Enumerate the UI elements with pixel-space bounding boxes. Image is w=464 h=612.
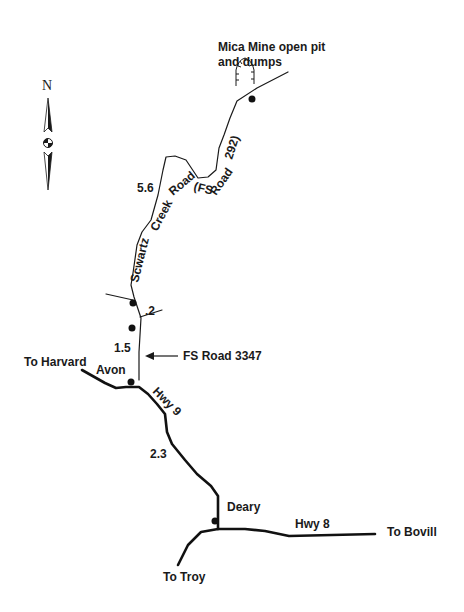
fs-road-3347-pointer-arrow	[145, 352, 178, 360]
road-label-road-2: Road	[207, 165, 236, 198]
avon-label: Avon	[96, 363, 126, 377]
distance-2-3: 2.3	[150, 447, 167, 461]
mine-label-line1: Mica Mine open pit	[218, 40, 325, 54]
mine-location-dot-icon	[249, 96, 256, 103]
side-road-west	[106, 294, 133, 300]
road-label-creek: Creek	[147, 197, 175, 233]
location-map: N Mica Mine open pit and dumps 5.6 .2 1.…	[0, 0, 464, 612]
road-label-292: 292)	[222, 134, 243, 161]
north-label: N	[42, 78, 52, 93]
road-label-scwartz: Scwartz	[127, 236, 152, 283]
deary-town-dot-icon	[212, 518, 219, 525]
to-bovill-label: To Bovill	[387, 525, 437, 539]
road-label-road: Road	[166, 168, 198, 198]
hwy-8-label: Hwy 8	[295, 517, 330, 531]
to-harvard-label: To Harvard	[24, 355, 86, 369]
fs-3347-start-dot-icon	[129, 325, 136, 332]
north-arrow-icon: N	[42, 78, 53, 190]
to-troy-label: To Troy	[163, 570, 206, 584]
avon-town-dot-icon	[128, 379, 135, 386]
road-to-troy	[178, 529, 218, 565]
junction-dot-icon	[130, 300, 137, 307]
distance-0-2: .2	[145, 304, 155, 318]
deary-label: Deary	[227, 500, 261, 514]
fs-road-3347-label: FS Road 3347	[183, 349, 262, 363]
distance-1-5: 1.5	[114, 341, 131, 355]
distance-5-6: 5.6	[137, 181, 154, 195]
